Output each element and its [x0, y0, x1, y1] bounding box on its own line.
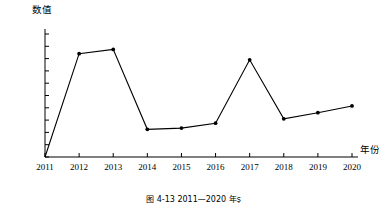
data-point-markers — [77, 47, 354, 131]
data-point-marker — [248, 58, 252, 62]
axis-lines — [45, 29, 358, 157]
data-point-marker — [145, 127, 149, 131]
data-point-marker — [77, 52, 81, 56]
x-axis-ticks — [45, 153, 352, 157]
data-point-marker — [316, 111, 320, 115]
data-point-marker — [111, 47, 115, 51]
plot-area — [0, 0, 387, 203]
data-point-marker — [282, 117, 286, 121]
figure-caption: 图 4-13 2011—2020 年ṣ — [0, 193, 387, 203]
data-point-marker — [214, 121, 218, 125]
y-axis-ticks — [45, 34, 49, 157]
data-point-marker — [180, 126, 184, 130]
data-series-line — [45, 49, 352, 157]
chart-container: 数值 年份 0.250.270.290.310.330.350.370.390.… — [0, 0, 387, 203]
data-point-marker — [350, 104, 354, 108]
